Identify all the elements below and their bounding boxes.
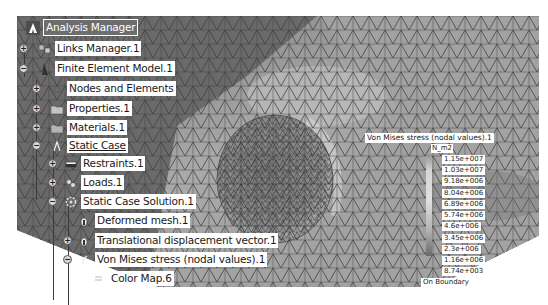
tree-root-label: Analysis Manager <box>43 19 138 36</box>
static-case-icon <box>50 138 64 152</box>
tree-item-label: Von Mises stress (nodal values).1 <box>95 252 267 267</box>
expand-icon[interactable]: + <box>19 44 28 53</box>
tree-item-restraints[interactable]: Restraints.1 <box>64 155 145 171</box>
tree-item-static-case-solution[interactable]: Static Case Solution.1 <box>64 193 196 209</box>
legend-tick: 9.18e+006 <box>442 177 485 186</box>
tree-connector <box>53 150 54 300</box>
legend-unit: N_m2 <box>431 144 453 153</box>
tree-root[interactable]: Analysis Manager <box>26 19 138 35</box>
tree-item-deformed-mesh[interactable]: Deformed mesh.1 <box>78 212 190 228</box>
collapse-icon[interactable]: − <box>19 64 28 73</box>
analysis-manager-icon <box>26 20 40 34</box>
tree-item-label: Color Map.6 <box>109 271 174 286</box>
tree-item-label: Materials.1 <box>67 120 127 135</box>
legend-footer: On Boundary <box>421 278 471 287</box>
restraints-icon <box>64 156 78 170</box>
legend-tick: 1.03e+007 <box>442 166 485 175</box>
materials-folder-icon <box>50 120 64 134</box>
legend-tick: 1.15e+007 <box>442 155 485 164</box>
legend-tick: 8.04e+006 <box>442 189 485 198</box>
legend-color-bar <box>426 156 432 256</box>
collapse-icon[interactable]: − <box>32 141 41 150</box>
tree-item-nodes-elements[interactable]: Nodes and Elements <box>50 80 176 96</box>
deformed-mesh-icon <box>78 213 92 227</box>
tree-item-label: Properties.1 <box>67 101 132 116</box>
expand-icon[interactable]: + <box>32 104 41 113</box>
tree-item-properties[interactable]: Properties.1 <box>50 100 132 116</box>
tree-item-label: Static Case Solution.1 <box>81 194 196 209</box>
expand-icon[interactable]: + <box>48 178 57 187</box>
solution-gear-icon <box>64 194 78 208</box>
tree-item-label: Nodes and Elements <box>67 81 176 96</box>
collapse-icon[interactable]: − <box>48 197 57 206</box>
collapse-icon[interactable]: − <box>63 255 72 264</box>
von-mises-icon <box>78 252 92 266</box>
loads-icon <box>64 175 78 189</box>
legend-tick: 2.3e+006 <box>442 245 481 254</box>
color-map-icon <box>92 271 106 285</box>
tree-item-loads[interactable]: Loads.1 <box>64 174 124 190</box>
finite-element-model-icon <box>38 61 52 75</box>
tree-item-label: Translational displacement vector.1 <box>95 233 278 248</box>
tree-connector <box>36 80 37 200</box>
tree-item-label: Loads.1 <box>81 175 124 190</box>
legend-tick: 8.74e+003 <box>442 267 485 276</box>
tree-item-materials[interactable]: Materials.1 <box>50 119 127 135</box>
legend-tick: 6.89e+006 <box>442 200 485 209</box>
legend-title: Von Mises stress (nodal values).1 <box>365 133 494 143</box>
tree-item-label: Deformed mesh.1 <box>95 213 190 228</box>
legend-tick: 4.6e+006 <box>442 222 481 231</box>
expand-icon[interactable]: + <box>32 123 41 132</box>
properties-folder-icon <box>50 101 64 115</box>
legend-tick: 1.16e+006 <box>442 256 485 265</box>
links-manager-icon <box>38 41 52 55</box>
legend-tick: 3.45e+006 <box>442 234 485 243</box>
tree-item-links-manager[interactable]: Links Manager.1 <box>38 40 141 56</box>
tree-item-von-mises-stress[interactable]: Von Mises stress (nodal values).1 <box>78 251 267 267</box>
tree-item-static-case[interactable]: Static Case <box>50 137 128 153</box>
tree-item-translational-displacement[interactable]: Translational displacement vector.1 <box>78 232 278 248</box>
tree-item-label: Finite Element Model.1 <box>55 61 175 76</box>
displacement-vector-icon <box>78 233 92 247</box>
nodes-elements-icon <box>50 81 64 95</box>
expand-icon[interactable]: + <box>48 159 57 168</box>
tree-item-label: Restraints.1 <box>81 156 145 171</box>
expand-icon[interactable]: + <box>63 236 72 245</box>
tree-item-label: Links Manager.1 <box>55 41 141 56</box>
tree-item-finite-element-model[interactable]: Finite Element Model.1 <box>38 60 175 76</box>
tree-item-color-map[interactable]: Color Map.6 <box>92 270 174 286</box>
tree-item-label: Static Case <box>67 138 128 153</box>
legend-tick: 5.74e+006 <box>442 211 485 220</box>
expand-icon[interactable]: + <box>32 84 41 93</box>
